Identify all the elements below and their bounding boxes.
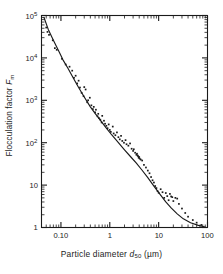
y-tick-label: 1	[34, 223, 38, 232]
x-tick-label: 100	[201, 231, 214, 240]
data-point	[192, 219, 194, 221]
data-point	[173, 200, 175, 202]
data-point	[101, 115, 103, 117]
data-point	[87, 99, 89, 101]
data-point	[118, 136, 120, 138]
fitted-curve	[44, 17, 205, 227]
y-tick-label: 104	[26, 53, 38, 63]
x-tick-label: 0.10	[53, 231, 68, 240]
data-point	[196, 222, 198, 224]
y-tick-mantissa: 10	[26, 54, 34, 63]
data-point	[184, 212, 186, 214]
data-point	[150, 176, 152, 178]
data-point	[187, 216, 189, 218]
data-point	[123, 142, 125, 144]
scatter-points	[45, 27, 202, 226]
y-tick-exponent: 5	[34, 11, 37, 17]
data-point	[136, 153, 138, 155]
data-point	[163, 197, 165, 199]
y-axis-title-text: Flocculation factor	[5, 85, 14, 157]
data-point	[92, 108, 94, 110]
data-point	[175, 197, 177, 199]
y-tick-exponent: 3	[34, 95, 37, 101]
data-point	[81, 92, 83, 94]
data-point	[166, 195, 168, 197]
flocculation-factor-chart: Flocculation factor Fm Particle diameter…	[0, 0, 223, 274]
data-point	[56, 49, 58, 51]
data-point	[106, 125, 108, 127]
data-point	[107, 127, 109, 129]
data-point	[165, 192, 167, 194]
plot-frame	[42, 16, 208, 228]
data-point	[160, 188, 162, 190]
data-point	[98, 117, 100, 119]
x-axis-units: (µm)	[141, 249, 162, 259]
data-point	[112, 126, 114, 128]
data-point	[132, 150, 134, 152]
data-point	[71, 70, 73, 72]
data-point	[48, 34, 50, 36]
data-point	[61, 58, 63, 60]
data-point	[104, 123, 106, 125]
data-point	[93, 106, 95, 108]
data-point	[121, 140, 123, 142]
data-point	[76, 83, 78, 85]
data-point	[158, 192, 160, 194]
data-point	[79, 87, 81, 89]
data-point	[108, 124, 110, 126]
x-axis-title-text: Particle diameter	[61, 249, 130, 259]
data-point	[152, 179, 154, 181]
data-point	[45, 27, 47, 29]
data-point	[73, 77, 75, 79]
data-point	[171, 196, 173, 198]
data-point	[149, 172, 151, 174]
data-point	[99, 119, 101, 121]
data-point	[78, 80, 80, 82]
data-point	[85, 89, 87, 91]
data-point	[131, 148, 133, 150]
data-point	[153, 182, 155, 184]
data-point	[75, 75, 77, 77]
data-point	[65, 64, 67, 66]
y-axis-title: Flocculation factor Fm	[0, 0, 20, 232]
x-tick-label: 1	[108, 231, 112, 240]
data-point	[154, 185, 156, 187]
data-point	[126, 143, 128, 145]
data-point	[54, 47, 56, 49]
data-point	[145, 167, 147, 169]
data-point	[162, 191, 164, 193]
data-point	[181, 208, 183, 210]
data-point	[128, 145, 130, 147]
y-tick-mantissa: 10	[26, 96, 34, 105]
data-point	[115, 134, 117, 136]
y-tick-label: 10	[30, 181, 38, 190]
y-tick-mantissa: 10	[26, 138, 34, 147]
y-tick-label: 103	[26, 95, 38, 105]
data-point	[69, 66, 71, 68]
data-point	[109, 129, 111, 131]
data-point	[168, 199, 170, 201]
data-point	[83, 86, 85, 88]
data-point	[156, 187, 158, 189]
data-point	[125, 139, 127, 141]
data-point	[91, 105, 93, 107]
data-point	[141, 160, 143, 162]
data-point	[201, 224, 203, 226]
data-point	[116, 132, 118, 134]
data-point	[97, 113, 99, 115]
x-tick-label: 10	[155, 231, 163, 240]
data-point	[143, 164, 145, 166]
data-point	[120, 135, 122, 137]
data-point	[169, 193, 171, 195]
data-point	[133, 148, 135, 150]
y-axis-symbol: F	[5, 80, 14, 85]
data-point	[83, 95, 85, 97]
data-point	[89, 97, 91, 99]
data-point	[110, 131, 112, 133]
y-tick-exponent: 2	[34, 138, 37, 144]
data-point	[157, 190, 159, 192]
y-tick-exponent: 4	[34, 53, 37, 59]
data-point	[113, 133, 115, 135]
y-axis-symbol-subscript: m	[9, 75, 15, 80]
y-tick-mantissa: 10	[26, 11, 34, 20]
